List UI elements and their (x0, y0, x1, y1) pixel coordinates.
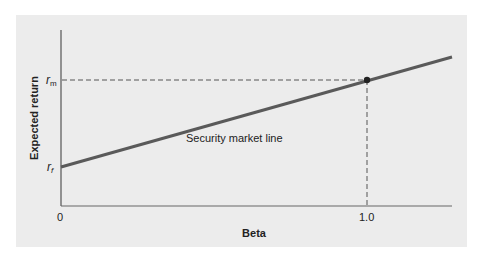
security-market-line (61, 57, 452, 167)
x-axis-title: Beta (242, 227, 267, 239)
y-axis-title: Expected return (28, 76, 40, 160)
market-portfolio-point (364, 77, 370, 83)
x-tick-0: 0 (57, 211, 63, 223)
rf-label: rf (47, 160, 54, 175)
sml-annotation: Security market line (186, 132, 283, 144)
sml-chart: rm rf 0 1.0 Beta Expected return Securit… (0, 0, 483, 262)
x-tick-1: 1.0 (359, 211, 374, 223)
rm-label: rm (46, 73, 57, 88)
